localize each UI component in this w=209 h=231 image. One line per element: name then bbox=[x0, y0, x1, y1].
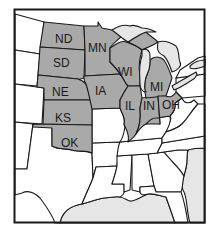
label-ok: OK bbox=[61, 136, 78, 150]
label-nd: ND bbox=[55, 32, 73, 46]
midwest-map: ND SD NE KS OK MN IA WI IL IN MI OH bbox=[0, 0, 209, 231]
state-wyoming bbox=[15, 50, 40, 86]
map-svg: ND SD NE KS OK MN IA WI IL IN MI OH bbox=[0, 0, 209, 231]
label-mn: MN bbox=[88, 41, 107, 55]
label-ne: NE bbox=[52, 85, 69, 99]
label-il: IL bbox=[125, 99, 135, 113]
label-oh: OH bbox=[162, 98, 180, 112]
label-ia: IA bbox=[95, 84, 106, 98]
label-mi: MI bbox=[150, 80, 163, 94]
state-colorado bbox=[15, 84, 44, 124]
label-wi: WI bbox=[118, 65, 133, 79]
label-sd: SD bbox=[53, 56, 70, 70]
label-ks: KS bbox=[55, 111, 71, 125]
label-in: IN bbox=[143, 99, 155, 113]
